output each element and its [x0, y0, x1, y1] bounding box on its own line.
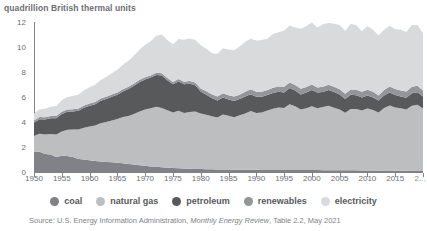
- y-tick-label-6: 6: [2, 93, 26, 102]
- source-suffix: , Table 2.2, May 2021: [269, 216, 341, 225]
- source-note: Source: U.S. Energy Information Administ…: [29, 216, 341, 225]
- x-tick-1980: [201, 173, 202, 177]
- x-tick-2015: [395, 173, 396, 177]
- legend-item-electricity[interactable]: electricity: [321, 196, 377, 206]
- legend-item-natural-gas[interactable]: natural gas: [96, 196, 158, 206]
- x-tick-1965: [117, 173, 118, 177]
- chart-legend: coalnatural gaspetroleumrenewableselectr…: [0, 196, 427, 206]
- y-tick-label-4: 4: [2, 118, 26, 127]
- x-tick-1985: [229, 173, 230, 177]
- y-tick-label-0: 0: [2, 168, 26, 177]
- x-tick-1950: [34, 173, 35, 177]
- chart-figure: quadrillion British thermal units 024681…: [0, 0, 427, 231]
- x-tick-1975: [173, 173, 174, 177]
- y-axis-title: quadrillion British thermal units: [4, 3, 136, 13]
- legend-item-renewables[interactable]: renewables: [244, 196, 307, 206]
- legend-swatch-icon: [50, 197, 59, 206]
- x-tick-1955: [62, 173, 63, 177]
- legend-swatch-icon: [321, 197, 330, 206]
- y-tick-label-12: 12: [2, 18, 26, 27]
- legend-label: electricity: [335, 196, 377, 206]
- source-publication: Monthly Energy Review: [190, 216, 269, 225]
- x-tick-1990: [256, 173, 257, 177]
- legend-label: coal: [64, 196, 82, 206]
- x-tick-2005: [340, 173, 341, 177]
- legend-label: petroleum: [186, 196, 230, 206]
- x-tick-1960: [90, 173, 91, 177]
- legend-swatch-icon: [172, 197, 181, 206]
- legend-label: natural gas: [110, 196, 158, 206]
- source-prefix: Source: U.S. Energy Information Administ…: [29, 216, 190, 225]
- x-tick-2010: [367, 173, 368, 177]
- y-tick-label-8: 8: [2, 68, 26, 77]
- legend-item-petroleum[interactable]: petroleum: [172, 196, 230, 206]
- stacked-area-svg: [34, 22, 423, 172]
- plot-area: [34, 22, 423, 172]
- x-tick-1970: [145, 173, 146, 177]
- y-tick-label-2: 2: [2, 143, 26, 152]
- legend-label: renewables: [258, 196, 307, 206]
- legend-swatch-icon: [244, 197, 253, 206]
- legend-swatch-icon: [96, 197, 105, 206]
- x-tick-2000: [312, 173, 313, 177]
- x-tick-2020: [423, 173, 424, 177]
- legend-item-coal[interactable]: coal: [50, 196, 82, 206]
- x-tick-1995: [284, 173, 285, 177]
- y-tick-label-10: 10: [2, 43, 26, 52]
